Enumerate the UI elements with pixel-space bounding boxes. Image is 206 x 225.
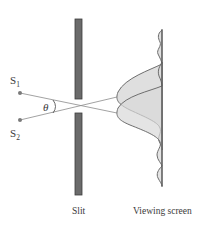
angle-arc (53, 100, 56, 113)
source-s2-label: S2 (10, 127, 20, 142)
rays (20, 93, 117, 120)
source-s1-label: S1 (10, 74, 20, 89)
intensity-patterns (117, 30, 162, 186)
slit-barrier-bottom (75, 113, 82, 195)
diffraction-diagram: S1 S2 θ Slit Viewing screen (0, 0, 206, 225)
ray-s2 (20, 97, 117, 120)
angle-theta-label: θ (43, 101, 49, 113)
source-s1-dot (18, 91, 22, 95)
viewing-screen-label: Viewing screen (133, 206, 192, 216)
slit-label: Slit (72, 206, 86, 216)
ray-s1 (20, 93, 117, 113)
slit-barrier-top (75, 19, 82, 99)
source-s2-dot (18, 118, 22, 122)
